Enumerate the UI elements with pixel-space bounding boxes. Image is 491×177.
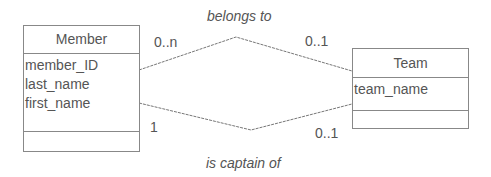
attribute-first-name: first_name: [25, 94, 139, 113]
is-captain-of-member-multiplicity: 1: [150, 119, 158, 135]
member-class: Member member_ID last_name first_name: [23, 25, 140, 152]
attribute-last-name: last_name: [25, 75, 139, 94]
team-attributes: team_name: [353, 78, 468, 111]
is-captain-of-label: is captain of: [206, 155, 281, 171]
member-class-name: Member: [24, 26, 139, 54]
belongs-to-team-multiplicity: 0..1: [305, 33, 328, 49]
is-captain-of-team-multiplicity: 0..1: [315, 125, 338, 141]
member-operations: [24, 132, 139, 150]
team-class: Team team_name: [352, 48, 469, 129]
attribute-team-name: team_name: [354, 80, 468, 99]
belongs-to-member-multiplicity: 0..n: [154, 34, 177, 50]
belongs-to-label: belongs to: [207, 8, 272, 24]
member-attributes: member_ID last_name first_name: [24, 54, 139, 132]
team-class-name: Team: [353, 49, 468, 78]
team-operations: [353, 111, 468, 128]
attribute-member-id: member_ID: [25, 56, 139, 75]
